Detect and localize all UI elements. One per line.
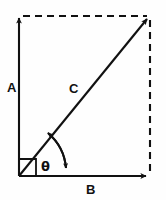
vector-c-label: C [69,82,78,95]
vector-diagram-canvas [0,0,166,200]
vector-a-label: A [7,81,16,94]
theta-angle-label: θ [41,160,50,173]
vector-c-line [19,19,147,176]
vector-diagram: A B C θ [0,0,166,200]
vector-b-label: B [86,183,95,196]
